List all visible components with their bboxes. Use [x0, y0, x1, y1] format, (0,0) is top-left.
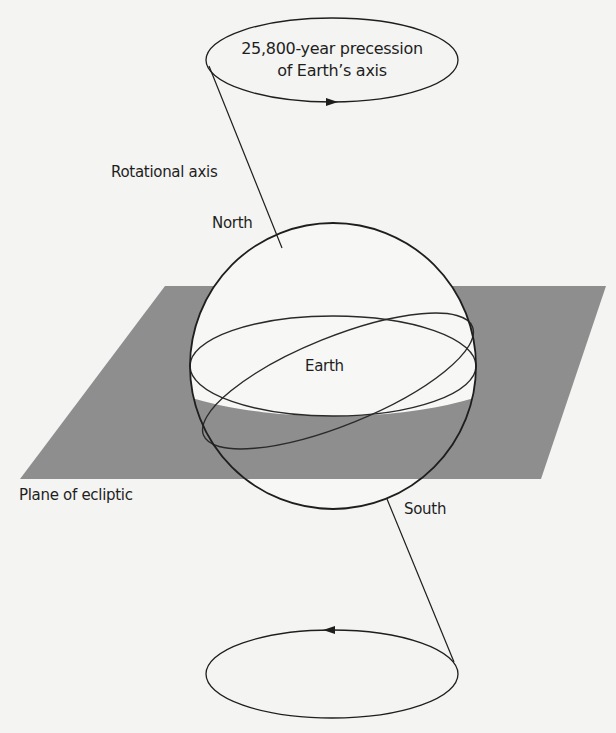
- rotational-axis-south: [387, 499, 454, 662]
- precession-diagram: 25,800-year precession of Earth’s axis R…: [0, 0, 616, 733]
- north-label: North: [212, 214, 252, 232]
- earth-label: Earth: [305, 357, 344, 375]
- south-label: South: [404, 500, 446, 518]
- precession-label: 25,800-year precession of Earth’s axis: [222, 38, 442, 82]
- precession-label-line2: of Earth’s axis: [222, 60, 442, 82]
- precession-label-line1: 25,800-year precession: [222, 38, 442, 60]
- south-precession-arrow-icon: [323, 626, 335, 634]
- south-precession-ellipse: [206, 630, 458, 718]
- plane-of-ecliptic-label: Plane of ecliptic: [19, 486, 133, 504]
- north-precession-arrow-icon: [326, 98, 338, 106]
- rotational-axis-label: Rotational axis: [111, 163, 217, 181]
